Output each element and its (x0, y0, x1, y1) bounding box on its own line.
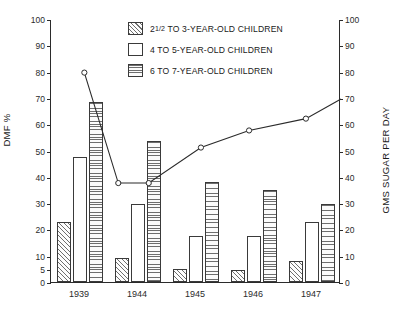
x-axis-label-1947: 1947 (301, 289, 321, 299)
y-tick-label-right-30: 30 (345, 200, 354, 209)
y-tick-label-left-0: 0 (40, 279, 45, 288)
legend-swatch-horizontal-hatch (128, 64, 143, 77)
x-axis-label-1946: 1946 (243, 289, 263, 299)
y-tick-label-right-60: 60 (345, 121, 354, 130)
y-axis-left-title: DMF % (1, 113, 12, 146)
legend-swatch-diagonal-hatch (128, 22, 143, 35)
y-tick-label-left-80: 80 (36, 69, 45, 78)
sugar-line-path (84, 73, 341, 183)
y-tick-label-left-70: 70 (36, 95, 45, 104)
sugar-line-marker-6 (303, 116, 308, 121)
y-tick-label-left-60: 60 (36, 121, 45, 130)
x-axis-label-1944: 1944 (127, 289, 147, 299)
sugar-line-marker-1 (82, 70, 87, 75)
legend-item-2: 4 TO 5-YEAR-OLD CHILDREN (128, 43, 283, 56)
x-axis-label-1939: 1939 (69, 289, 89, 299)
y-tick-label-left-5: 5 (40, 266, 45, 275)
y-tick-label-right-0: 0 (345, 279, 350, 288)
y-tick-left-0 (47, 283, 51, 284)
legend-label-3: 6 TO 7-YEAR-OLD CHILDREN (150, 66, 273, 76)
legend-label-2: 4 TO 5-YEAR-OLD CHILDREN (150, 45, 273, 55)
chart-figure: DMF % GMS SUGAR PER DAY 0510203040506070… (0, 0, 398, 324)
y-tick-label-left-40: 40 (36, 174, 45, 183)
sugar-line-marker-3 (146, 180, 151, 185)
y-tick-label-right-70: 70 (345, 95, 354, 104)
y-tick-label-left-100: 100 (31, 16, 45, 25)
x-axis-label-1945: 1945 (185, 289, 205, 299)
y-tick-label-left-20: 20 (36, 226, 45, 235)
legend-item-3: 6 TO 7-YEAR-OLD CHILDREN (128, 64, 283, 77)
chart-legend: 21/2 TO 3-YEAR-OLD CHILDREN4 TO 5-YEAR-O… (128, 22, 283, 85)
y-tick-label-right-50: 50 (345, 148, 354, 157)
y-tick-right-0 (339, 283, 343, 284)
legend-swatch-plain-white (128, 43, 143, 56)
y-tick-label-right-100: 100 (345, 16, 359, 25)
y-tick-label-left-10: 10 (36, 253, 45, 262)
y-tick-label-right-90: 90 (345, 42, 354, 51)
legend-fraction-glyph: 1/2 (155, 24, 165, 31)
sugar-line-marker-5 (246, 128, 251, 133)
y-tick-label-right-40: 40 (345, 174, 354, 183)
sugar-line-marker-4 (198, 145, 203, 150)
legend-item-1: 21/2 TO 3-YEAR-OLD CHILDREN (128, 22, 283, 35)
y-tick-label-left-30: 30 (36, 200, 45, 209)
y-tick-label-left-50: 50 (36, 148, 45, 157)
y-axis-right-title: GMS SUGAR PER DAY (380, 107, 391, 214)
y-tick-label-right-80: 80 (345, 69, 354, 78)
y-tick-label-right-20: 20 (345, 226, 354, 235)
legend-label-1: 21/2 TO 3-YEAR-OLD CHILDREN (150, 24, 283, 34)
y-tick-label-right-10: 10 (345, 253, 354, 262)
y-tick-label-left-90: 90 (36, 42, 45, 51)
sugar-line-marker-2 (116, 180, 121, 185)
